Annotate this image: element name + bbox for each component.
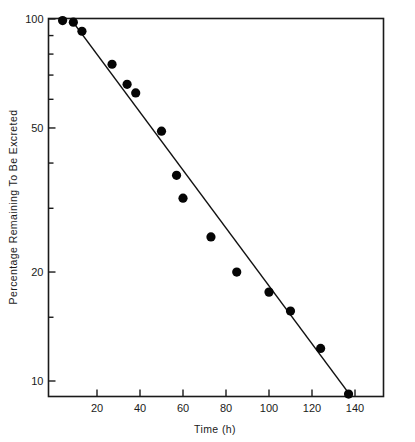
data-point (264, 288, 273, 297)
x-tick-label-40: 40 (134, 402, 146, 414)
x-tick-label-140: 140 (346, 402, 364, 414)
x-tick-label-100: 100 (260, 402, 278, 414)
semilog-scatter-chart: 100502010 20406080100120140 Time (h) Per… (0, 0, 415, 442)
data-point (316, 344, 325, 353)
data-point (178, 194, 187, 203)
y-axis-title: Percentage Remaining To Be Excreted (7, 110, 19, 305)
data-point (172, 171, 181, 180)
fit-line (76, 25, 351, 395)
x-tick-label-120: 120 (303, 402, 321, 414)
chart-figure: 100502010 20406080100120140 Time (h) Per… (0, 0, 415, 442)
data-point (69, 18, 78, 27)
y-axis-ticks (49, 19, 56, 381)
data-point (157, 127, 166, 136)
x-tick-label-20: 20 (91, 402, 103, 414)
x-axis-title: Time (h) (194, 423, 236, 435)
regression-line (76, 25, 351, 395)
data-point (206, 232, 215, 241)
y-tick-label-100: 100 (25, 13, 43, 25)
y-tick-label-20: 20 (31, 266, 43, 278)
x-axis-ticks (97, 390, 355, 397)
x-tick-label-60: 60 (177, 402, 189, 414)
x-axis-tick-labels: 20406080100120140 (91, 402, 364, 414)
data-point (58, 16, 67, 25)
data-point (123, 80, 132, 89)
y-tick-label-10: 10 (31, 375, 43, 387)
data-point (107, 60, 116, 69)
data-point (232, 267, 241, 276)
data-point (77, 27, 86, 36)
x-tick-label-80: 80 (220, 402, 232, 414)
data-point (286, 306, 295, 315)
y-tick-label-50: 50 (31, 122, 43, 134)
data-point (344, 390, 353, 399)
plot-frame (49, 19, 384, 397)
data-points (58, 16, 353, 399)
y-axis-tick-labels: 100502010 (25, 13, 43, 387)
data-point (131, 88, 140, 97)
